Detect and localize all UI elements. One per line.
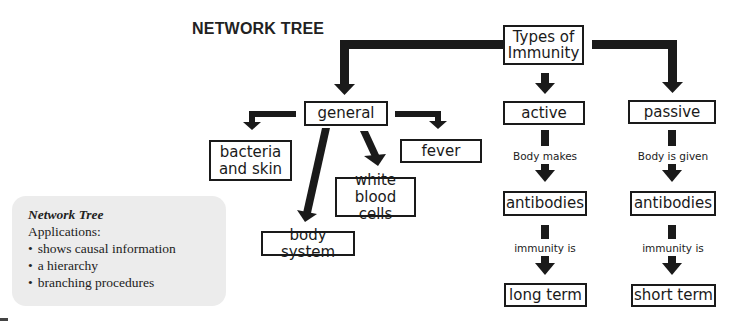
arrow-root-to-passive: [592, 40, 683, 93]
note-heading: Network Tree: [28, 206, 210, 223]
node-active: active: [503, 101, 585, 125]
note-item: a hierarchy: [28, 257, 210, 274]
diagram-canvas: NETWORK TREE: [0, 0, 733, 327]
node-fever: fever: [400, 139, 482, 163]
arrow-general-to-bacteria: [243, 111, 296, 130]
node-white-blood-cells: white blood cells: [335, 177, 416, 217]
arrow-root-to-active: [535, 73, 555, 94]
edge-label-immunity-is-active: immunity is: [505, 242, 585, 254]
arrow-general-to-fever: [395, 111, 447, 129]
note-item: shows causal information: [28, 240, 210, 257]
note-item: branching procedures: [28, 274, 210, 291]
arrow-root-to-general: [334, 40, 504, 95]
edge-label-body-is-given: Body is given: [630, 150, 716, 162]
node-short-term: short term: [631, 284, 716, 307]
applications-note: Network Tree Applications: shows causal …: [12, 196, 226, 306]
arrow-general-to-body-system: [297, 128, 330, 222]
node-passive-antibodies: antibodies: [630, 191, 716, 216]
corner-mark: [0, 318, 8, 321]
node-general: general: [304, 101, 388, 126]
note-list: shows causal information a hierarchy bra…: [28, 240, 210, 291]
node-body-system: body system: [261, 231, 355, 256]
node-bacteria-and-skin: bacteria and skin: [209, 140, 292, 181]
node-passive: passive: [628, 100, 716, 124]
arrow-general-to-white-blood-cells: [360, 131, 386, 166]
node-long-term: long term: [504, 283, 587, 307]
note-subheading: Applications:: [28, 223, 210, 240]
edge-label-immunity-is-passive: immunity is: [630, 242, 716, 254]
edge-label-body-makes: Body makes: [505, 150, 585, 162]
node-active-antibodies: antibodies: [503, 191, 587, 216]
node-types-of-immunity: Types of Immunity: [503, 25, 584, 65]
